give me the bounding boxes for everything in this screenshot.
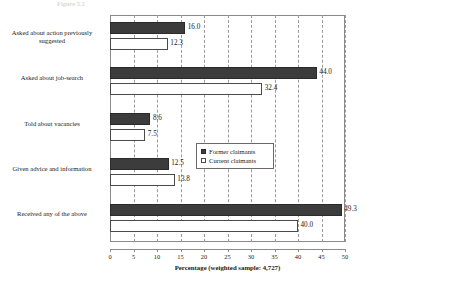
x-tick-label: 30 xyxy=(248,253,254,261)
bar-current[interactable] xyxy=(110,129,145,141)
bar-value-label: 32.4 xyxy=(265,84,278,92)
bar-current[interactable] xyxy=(110,38,168,50)
category-label: Told about vacancies xyxy=(0,120,106,128)
legend-item[interactable]: Former claimants xyxy=(201,147,269,156)
bar-former[interactable] xyxy=(110,204,342,216)
x-tick xyxy=(345,249,346,252)
x-tick-label: 15 xyxy=(177,253,183,261)
x-tick xyxy=(228,249,229,252)
bar-value-label: 12.5 xyxy=(171,159,184,167)
bar-value-label: 16.0 xyxy=(188,23,201,31)
category-label: Asked about job-search xyxy=(0,74,106,82)
bar-value-label: 12.3 xyxy=(170,39,183,47)
bar-former[interactable] xyxy=(110,113,150,125)
x-tick-label: 25 xyxy=(224,253,230,261)
legend-swatch-current-icon xyxy=(201,158,206,163)
bar-value-label: 13.8 xyxy=(177,175,190,183)
x-tick-label: 20 xyxy=(201,253,207,261)
bar-value-label: 40.0 xyxy=(301,221,314,229)
x-axis-title: Percentage (weighted sample: 4,727) xyxy=(110,264,345,271)
bar-value-label: 7.5 xyxy=(148,130,157,138)
category-label: Asked about action previously suggested xyxy=(0,29,106,46)
x-tick xyxy=(298,249,299,252)
x-tick-label: 0 xyxy=(108,253,111,261)
legend-item[interactable]: Current claimants xyxy=(201,156,269,165)
x-tick-label: 35 xyxy=(271,253,277,261)
x-tick xyxy=(110,249,111,252)
category-label: Given advice and information xyxy=(0,165,106,173)
x-tick xyxy=(251,249,252,252)
bar-former[interactable] xyxy=(110,67,317,79)
legend-label: Former claimants xyxy=(209,147,255,156)
bar-value-label: 49.3 xyxy=(344,205,357,213)
figure-caption: Figure 5.2 xyxy=(57,0,153,7)
legend-swatch-former-icon xyxy=(201,149,206,154)
bar-former[interactable] xyxy=(110,158,169,170)
bar-value-label: 44.0 xyxy=(319,68,332,76)
bar-group: 44.032.4 xyxy=(0,60,455,105)
x-tick-label: 45 xyxy=(318,253,324,261)
x-tick xyxy=(204,249,205,252)
bar-current[interactable] xyxy=(110,174,175,186)
x-tick-label: 10 xyxy=(154,253,160,261)
figure-root: Figure 5.2 16.012.3Asked about action pr… xyxy=(0,0,455,284)
bar-value-label: 8.6 xyxy=(153,114,162,122)
x-tick xyxy=(275,249,276,252)
x-tick xyxy=(322,249,323,252)
bar-current[interactable] xyxy=(110,220,298,232)
bar-group: 49.340.0 xyxy=(0,197,455,242)
bar-current[interactable] xyxy=(110,83,262,95)
bar-former[interactable] xyxy=(110,22,185,34)
category-label: Received any of the above xyxy=(0,210,106,218)
x-tick-label: 40 xyxy=(295,253,301,261)
legend-label: Current claimants xyxy=(209,156,256,165)
x-tick xyxy=(134,249,135,252)
chart-legend: Former claimantsCurrent claimants xyxy=(196,143,274,169)
x-tick-label: 5 xyxy=(132,253,135,261)
x-tick xyxy=(157,249,158,252)
x-tick xyxy=(181,249,182,252)
x-tick-label: 50 xyxy=(342,253,348,261)
